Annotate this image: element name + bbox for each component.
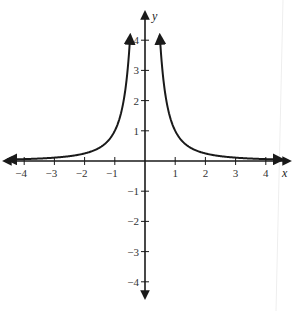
x-tick-label: −3: [46, 167, 58, 179]
x-tick-label: −4: [15, 167, 27, 179]
curve-right-branch: [160, 35, 283, 159]
y-tick-label: −4: [127, 276, 139, 288]
y-tick-label: 2: [134, 95, 140, 107]
y-tick-label: 4: [134, 34, 140, 46]
y-axis-label: y: [151, 9, 158, 23]
axes: [4, 12, 290, 298]
x-tick-label: −2: [76, 167, 88, 179]
curve-left-branch: [8, 35, 131, 159]
x-tick-label: −1: [106, 167, 118, 179]
x-tick-label: 3: [233, 167, 239, 179]
y-tick-label: 3: [134, 64, 140, 76]
x-tick-label: 1: [172, 167, 178, 179]
graph: −4−3−2−11234−4−3−2−11234 x y: [0, 0, 299, 311]
x-tick-label: 2: [203, 167, 209, 179]
y-tick-label: −3: [127, 246, 139, 258]
scan-edge-line: [276, 0, 283, 311]
x-axis-label: x: [281, 166, 288, 180]
x-tick-label: 4: [263, 167, 269, 179]
y-tick-label: −2: [127, 215, 139, 227]
y-tick-label: −1: [127, 185, 139, 197]
y-tick-label: 1: [134, 125, 140, 137]
